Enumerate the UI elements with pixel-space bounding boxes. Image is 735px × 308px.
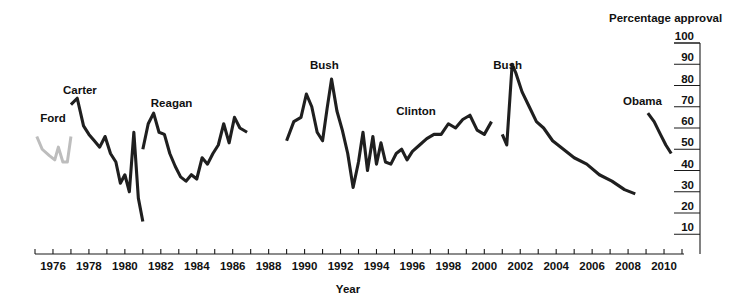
x-tick-label-1978: 1978 [76,260,102,272]
series-label-reagan-2: Reagan [151,97,193,109]
x-tick-label-2010: 2010 [651,260,677,272]
x-tick-label-1984: 1984 [184,260,210,272]
x-tick-label-2008: 2008 [615,260,641,272]
x-tick-label-2000: 2000 [472,260,498,272]
x-tick-label-1996: 1996 [400,260,426,272]
x-tick-label-1986: 1986 [220,260,246,272]
series-label-bush-5: Bush [493,59,522,71]
x-tick-label-1994: 1994 [364,260,390,272]
series-layer [37,64,671,221]
x-tick-label-1998: 1998 [436,260,462,272]
x-axis: 1976197819801982198419861988199019921994… [35,249,684,272]
y-tick-label-100: 100 [675,30,694,42]
y-tick-label-80: 80 [681,73,694,85]
y-axis: 102030405060708090100 [674,30,700,254]
series-line-bush-5 [502,64,635,194]
x-tick-label-2006: 2006 [579,260,605,272]
series-line-ford-0 [37,137,71,163]
y-tick-label-10: 10 [681,221,694,233]
x-tick-label-1982: 1982 [148,260,174,272]
y-tick-label-20: 20 [681,200,694,212]
series-line-carter-1 [71,98,143,221]
x-tick-label-1988: 1988 [256,260,282,272]
x-tick-label-1976: 1976 [40,260,66,272]
x-tick-label-2002: 2002 [508,260,534,272]
chart-svg: FordCarterReaganBushClintonBushObama 197… [0,0,735,308]
y-tick-label-90: 90 [681,51,694,63]
x-tick-label-1990: 1990 [292,260,318,272]
series-label-clinton-4: Clinton [396,105,436,117]
y-tick-label-40: 40 [681,158,694,170]
series-line-reagan-2 [143,113,247,181]
series-line-clinton-4 [359,115,492,170]
series-label-obama-6: Obama [623,95,663,107]
y-tick-label-30: 30 [681,179,694,191]
x-tick-label-1992: 1992 [328,260,354,272]
series-label-ford-0: Ford [40,112,66,124]
x-tick-label-2004: 2004 [543,260,569,272]
approval-rating-chart: FordCarterReaganBushClintonBushObama 197… [0,0,735,308]
y-tick-label-50: 50 [681,136,694,148]
y-tick-label-60: 60 [681,115,694,127]
series-label-carter-1: Carter [63,84,97,96]
y-tick-label-70: 70 [681,94,694,106]
series-label-bush-3: Bush [310,59,339,71]
y-axis-title: Percentage approval [609,12,722,24]
series-line-bush-3 [287,79,359,187]
x-tick-label-1980: 1980 [112,260,138,272]
x-axis-title: Year [336,283,361,295]
series-labels-layer: FordCarterReaganBushClintonBushObama [40,59,662,124]
series-line-obama-6 [648,113,671,153]
